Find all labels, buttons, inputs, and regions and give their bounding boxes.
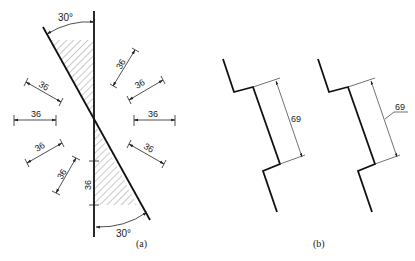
svg-text:36: 36 xyxy=(148,109,158,119)
extension-line-top xyxy=(348,78,375,87)
svg-text:36: 36 xyxy=(114,57,128,71)
dimension-lower-left: 36 xyxy=(25,139,64,167)
leader-line xyxy=(385,112,394,119)
figure-a-caption: (a) xyxy=(136,238,147,250)
figure-b-caption: (b) xyxy=(313,238,325,250)
bottom-angle-label: 30° xyxy=(116,228,131,239)
figure-b: 69 69 (b) xyxy=(223,59,408,250)
dimension-upper-left: 36 xyxy=(24,78,63,106)
svg-text:36: 36 xyxy=(33,140,47,154)
svg-text:36: 36 xyxy=(83,180,93,190)
top-angle-label: 30° xyxy=(58,12,73,23)
dimension-label-right: 69 xyxy=(395,102,405,112)
svg-text:36: 36 xyxy=(55,167,69,181)
dimension-lower-left-steep: 36 xyxy=(52,156,80,195)
bottom-angle-arc xyxy=(96,212,147,227)
dimension-label-left: 69 xyxy=(291,114,301,124)
dimension-lower-right: 36 xyxy=(127,140,166,168)
dimension-mid-right: 36 xyxy=(127,76,165,104)
extension-line-bottom xyxy=(375,155,400,164)
top-angle-arc xyxy=(47,22,94,34)
drawing-canvas: 30° 30° 36 36 36 36 xyxy=(0,0,415,261)
figure-a: 30° 30° 36 36 36 36 xyxy=(14,11,175,250)
svg-text:36: 36 xyxy=(37,79,51,93)
dimension-horizontal-right: 36 xyxy=(134,109,175,126)
extension-line-bottom xyxy=(280,155,305,164)
dimension-horizontal-left: 36 xyxy=(14,109,56,126)
extension-line-top xyxy=(253,78,280,87)
hatched-region-bottom xyxy=(94,122,137,205)
stepped-profile-right: 69 xyxy=(318,59,408,212)
svg-text:36: 36 xyxy=(133,77,147,91)
svg-text:36: 36 xyxy=(31,109,41,119)
dimension-line-right xyxy=(371,81,397,157)
stepped-profile-left: 69 xyxy=(223,59,305,212)
